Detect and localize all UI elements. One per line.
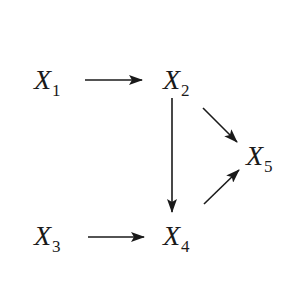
edge-x4-x5: [204, 170, 239, 204]
node-x5: X5: [246, 142, 273, 175]
node-x3: X3: [34, 222, 61, 255]
causal-diagram: X1 X2 X3 X4 X5: [0, 0, 294, 300]
node-x4: X4: [163, 222, 190, 255]
node-x1: X1: [34, 66, 61, 99]
node-x2: X2: [163, 66, 190, 99]
edge-x2-x5: [203, 108, 237, 142]
